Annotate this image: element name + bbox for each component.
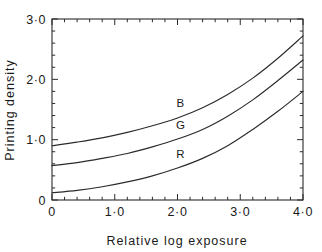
- x-tick-label: 0: [48, 205, 56, 219]
- y-tick-label: 3·0: [26, 13, 46, 27]
- series-label-r: R: [176, 148, 185, 160]
- series-labels-group: BGR: [176, 97, 185, 160]
- series-label-g: G: [176, 119, 185, 131]
- chart-figure: 01·02·03·04·0 01·02·03·0 BGR Relative lo…: [0, 0, 322, 252]
- y-axis-title: Printing density: [3, 59, 17, 160]
- series-label-b: B: [177, 97, 185, 109]
- x-tick-label: 2·0: [168, 205, 188, 219]
- line-chart-svg: 01·02·03·04·0 01·02·03·0 BGR Relative lo…: [0, 0, 322, 252]
- y-tick-label: 1·0: [26, 133, 46, 147]
- x-axis-title: Relative log exposure: [106, 234, 247, 248]
- y-tick-label: 0: [38, 194, 46, 208]
- x-tick-label: 4·0: [293, 205, 313, 219]
- y-tick-label: 2·0: [26, 73, 46, 87]
- x-tick-label: 1·0: [105, 205, 125, 219]
- x-tick-label: 3·0: [230, 205, 250, 219]
